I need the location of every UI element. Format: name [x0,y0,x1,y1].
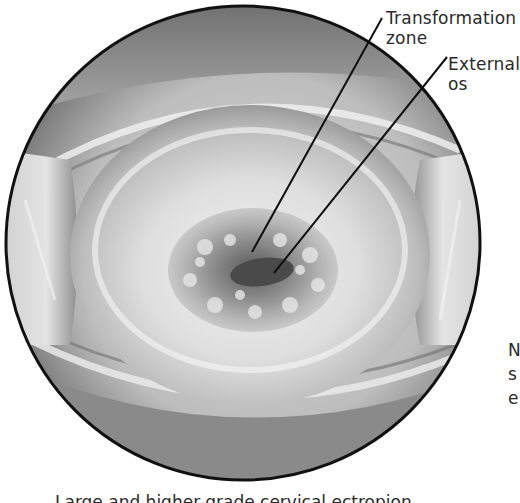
caption-cut: Large and higher-grade cervical ectropio… [55,492,412,503]
label-transformation-zone: Transformation zone [386,8,516,48]
label-external-os: External os [448,54,520,94]
label-text: N [508,338,520,362]
label-text: s [508,362,520,386]
figure: Transformation zone External os N s e La… [0,0,520,503]
label-text: Transformation [386,8,516,28]
cervix-illustration [0,0,520,503]
label-side-cut: N s e [508,338,520,410]
label-text: zone [386,28,516,48]
label-text: External [448,54,520,74]
label-text: e [508,386,520,410]
label-text: os [448,74,520,94]
speculum-view [0,0,520,503]
